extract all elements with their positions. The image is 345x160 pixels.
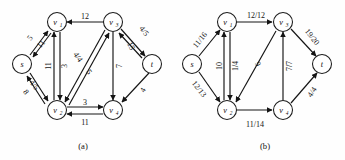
edge-a-v3-v2 <box>65 30 105 102</box>
caption-a: (a) <box>78 141 88 151</box>
edge-label-a-s-v1: 5 <box>25 34 35 43</box>
node-label-a-v2: v <box>53 106 57 115</box>
node-label-a-v4: v <box>109 106 113 115</box>
node-label-b-v3: v <box>279 18 283 27</box>
node-b-v3[interactable] <box>274 13 293 32</box>
edge-label-a-v2-v1: 11 <box>44 62 53 70</box>
node-sub-b-v3: 3 <box>285 22 289 28</box>
node-b-v1[interactable] <box>218 13 237 32</box>
node-label-a-s: s <box>20 60 23 69</box>
node-label-a-v3: v <box>109 18 113 27</box>
node-a-v4[interactable] <box>104 101 123 120</box>
edge-label-a-t-v4: 4 <box>138 86 148 94</box>
node-label-b-v1: v <box>223 18 227 27</box>
caption-b: (b) <box>260 141 270 151</box>
edge-label-b-v2-v1: 10 <box>215 62 224 70</box>
edge-label-b-v4-v3: 7/7 <box>285 61 294 71</box>
node-b-v4[interactable] <box>274 101 293 120</box>
edge-label-b-v1-v2: 1/4 <box>231 61 240 71</box>
node-sub-b-v4: 4 <box>286 110 289 116</box>
edge-label-a-v2-v4: 3 <box>83 98 87 107</box>
node-sub-a-v2: 2 <box>60 110 63 116</box>
edge-label-a-v3-v4: 7 <box>115 64 124 68</box>
panel-a: s v 1 v 2 v 3 v 4 t 5 11 4/5 8 11 3 12 4… <box>13 12 162 152</box>
node-label-a-v1: v <box>53 18 57 27</box>
node-sub-b-v1: 1 <box>230 22 233 28</box>
edge-label-a-v3-t: 4/5 <box>137 24 150 38</box>
node-sub-a-v1: 1 <box>60 22 63 28</box>
edge-label-b-v2-v4: 11/14 <box>246 120 264 129</box>
edge-label-b-v4-t: 4/4 <box>305 85 318 99</box>
node-sub-a-v3: 3 <box>115 22 119 28</box>
panel-b: s v 1 v 2 v 3 v 4 t 11/16 12/13 10 1/4 1… <box>183 11 332 152</box>
node-sub-a-v4: 4 <box>116 110 119 116</box>
figure-container: s v 1 v 2 v 3 v 4 t 5 11 4/5 8 11 3 12 4… <box>0 0 345 160</box>
node-a-v2[interactable] <box>48 101 67 120</box>
node-b-v2[interactable] <box>218 101 237 120</box>
edge-label-b-v3-v2: 9 <box>253 60 263 68</box>
node-label-b-v2: v <box>223 106 227 115</box>
edge-label-a-v3-v1: 12 <box>81 12 89 21</box>
edge-label-a-v2-s: 8 <box>21 88 31 97</box>
edge-label-b-v1-v3: 12/12 <box>247 11 265 20</box>
edge-label-a-v1-v2: 3 <box>60 64 69 68</box>
node-a-v1[interactable] <box>48 13 67 32</box>
node-label-b-s: s <box>190 60 193 69</box>
node-a-v3[interactable] <box>104 13 123 32</box>
edge-label-a-v4-v2: 11 <box>81 118 89 127</box>
edge-label-a-v2-v3: 5 <box>84 68 94 76</box>
node-label-b-v4: v <box>279 106 283 115</box>
edge-label-a-v3-v2: 4/4 <box>71 50 84 64</box>
node-sub-b-v2: 2 <box>230 110 233 116</box>
edge-a-t-v4 <box>122 73 149 102</box>
flow-network-figure: s v 1 v 2 v 3 v 4 t 5 11 4/5 8 11 3 12 4… <box>0 0 345 160</box>
